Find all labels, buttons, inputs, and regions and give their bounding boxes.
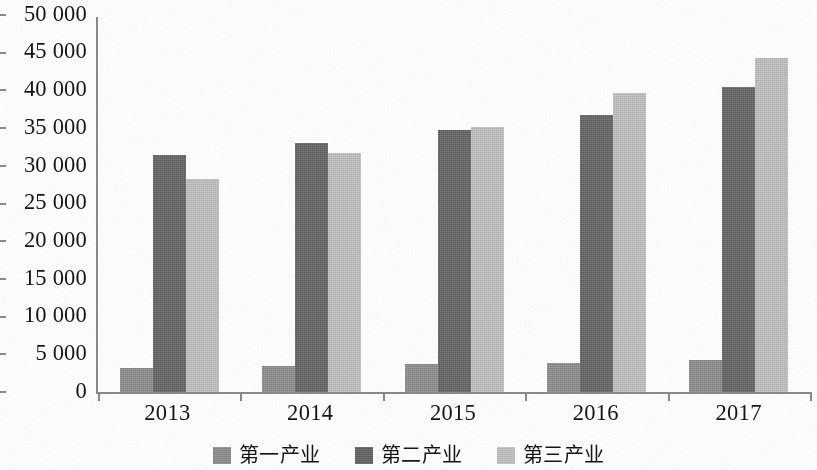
y-axis-tick-mark: [0, 89, 6, 91]
y-axis-tick-mark: [0, 316, 6, 318]
bar: [405, 364, 438, 392]
legend-item: 第三产业: [497, 445, 605, 465]
y-axis-tick-label: 0: [76, 380, 98, 403]
bar: [471, 127, 504, 392]
bar: [755, 58, 788, 392]
y-axis-tick-mark: [0, 127, 6, 129]
y-axis-tick-label: 50 000: [24, 3, 98, 26]
x-axis-label: 2017: [715, 402, 761, 425]
y-axis-tick-mark: [0, 391, 6, 393]
legend-swatch: [213, 447, 231, 464]
x-axis-label-cell: 2014: [239, 396, 382, 430]
bar-group: [383, 17, 525, 392]
bar: [295, 143, 328, 392]
y-axis-tick-label: 10 000: [24, 304, 98, 327]
legend-swatch: [355, 447, 373, 464]
bars-layer: [98, 17, 810, 392]
bar: [262, 366, 295, 392]
bar: [328, 153, 361, 392]
x-axis-label-cell: 2017: [667, 396, 810, 430]
bar-group: [525, 17, 667, 392]
legend-item: 第一产业: [213, 445, 321, 465]
y-axis-tick-mark: [0, 203, 6, 205]
plot-area: 05 00010 00015 00020 00025 00030 00035 0…: [96, 17, 810, 394]
bar: [186, 179, 219, 392]
x-axis-label-cell: 2013: [96, 396, 239, 430]
y-axis-tick-label: 15 000: [24, 267, 98, 290]
bar-group: [668, 17, 810, 392]
y-axis-tick-label: 30 000: [24, 154, 98, 177]
legend-label: 第一产业: [239, 445, 321, 465]
x-axis-tick-mark: [810, 392, 812, 401]
y-axis-tick-label: 45 000: [24, 40, 98, 63]
bar: [153, 155, 186, 392]
y-axis-tick-label: 20 000: [24, 229, 98, 252]
y-axis-tick-mark: [0, 278, 6, 280]
x-axis-label-cell: 2016: [524, 396, 667, 430]
bar-chart: 05 00010 00015 00020 00025 00030 00035 0…: [0, 0, 817, 470]
bar: [689, 360, 722, 392]
legend-label: 第三产业: [523, 445, 605, 465]
x-axis-label: 2013: [144, 402, 190, 425]
bar: [438, 130, 471, 392]
bar: [580, 115, 613, 392]
x-axis-labels: 20132014201520162017: [96, 396, 810, 430]
x-axis-label: 2016: [573, 402, 619, 425]
y-axis-tick-label: 35 000: [24, 116, 98, 139]
bar: [120, 368, 153, 392]
x-axis-label: 2015: [430, 402, 476, 425]
bar-group: [98, 17, 240, 392]
bar: [547, 363, 580, 392]
legend-label: 第二产业: [381, 445, 463, 465]
bar-group: [240, 17, 382, 392]
y-axis-tick-mark: [0, 353, 6, 355]
legend-swatch: [497, 447, 515, 464]
y-axis-tick-label: 25 000: [24, 191, 98, 214]
y-axis-tick-mark: [0, 240, 6, 242]
bar: [613, 93, 646, 392]
y-axis-tick-mark: [0, 14, 6, 16]
x-axis-label: 2014: [287, 402, 333, 425]
y-axis-tick-mark: [0, 52, 6, 54]
x-axis-label-cell: 2015: [382, 396, 525, 430]
y-axis-tick-label: 5 000: [35, 342, 98, 365]
bar: [722, 87, 755, 392]
y-axis-tick-mark: [0, 165, 6, 167]
legend-item: 第二产业: [355, 445, 463, 465]
chart-legend: 第一产业第二产业第三产业: [0, 440, 817, 470]
y-axis-tick-label: 40 000: [24, 78, 98, 101]
